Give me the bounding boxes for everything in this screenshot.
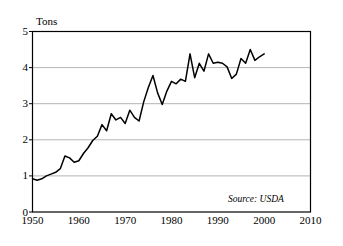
y-tick-label: 5 bbox=[6, 26, 28, 37]
y-axis-title: Tons bbox=[36, 16, 57, 27]
y-tick-label: 4 bbox=[6, 62, 28, 73]
y-tick-label: 1 bbox=[6, 170, 28, 181]
plot-area bbox=[0, 0, 343, 246]
chart-figure: Tons 012345 1950196019701980199020002010… bbox=[0, 0, 343, 246]
data-line-tons bbox=[33, 50, 265, 181]
plot-frame bbox=[33, 32, 311, 213]
x-tick-label: 1990 bbox=[198, 215, 238, 226]
source-note: Source: USDA bbox=[228, 194, 284, 204]
x-tick-label: 1970 bbox=[105, 215, 145, 226]
y-tick-label: 3 bbox=[6, 98, 28, 109]
y-tick-label: 2 bbox=[6, 134, 28, 145]
y-axis-tick-labels: 012345 bbox=[4, 0, 28, 246]
x-tick-label: 1960 bbox=[59, 215, 99, 226]
gridlines bbox=[33, 68, 311, 176]
x-tick-label: 1980 bbox=[152, 215, 192, 226]
x-tick-label: 1950 bbox=[13, 215, 53, 226]
x-tick-label: 2000 bbox=[244, 215, 284, 226]
x-tick-label: 2010 bbox=[291, 215, 331, 226]
